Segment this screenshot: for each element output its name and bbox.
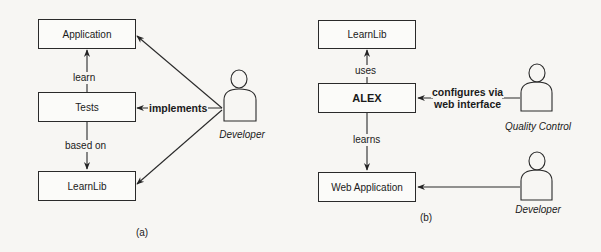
node-learnlib-b: LearnLib [318, 20, 416, 49]
edge-label-learn: learn [72, 72, 96, 84]
node-web-application: Web Application [318, 172, 416, 202]
actor-label-developer-b: Developer [515, 204, 561, 215]
node-label: Tests [75, 102, 98, 113]
actor-label-developer: Developer [219, 129, 265, 140]
caption-b: (b) [420, 212, 432, 223]
node-label: Web Application [331, 182, 403, 193]
developer-actor-icon [224, 70, 256, 121]
arrow-developer-learnlib [137, 110, 222, 184]
node-label: ALEX [352, 92, 381, 104]
node-application: Application [38, 19, 136, 49]
edge-label-based-on: based on [64, 140, 107, 152]
edge-label-implements: implements [148, 102, 208, 114]
node-learnlib: LearnLib [38, 171, 136, 201]
actor-label-quality-control: Quality Control [505, 121, 571, 132]
node-label: Application [63, 29, 112, 40]
arrow-developer-application [137, 36, 222, 108]
edge-label-learns: learns [352, 134, 381, 146]
quality-control-actor-icon [521, 64, 552, 111]
edge-label-configures-line1: configures via [431, 86, 504, 98]
edge-label-configures-line2: web interface [433, 98, 502, 110]
edge-label-uses: uses [354, 65, 377, 77]
node-label: LearnLib [348, 29, 387, 40]
node-tests: Tests [38, 92, 136, 122]
caption-a: (a) [136, 227, 148, 238]
node-label: LearnLib [68, 181, 107, 192]
developer-b-actor-icon [521, 152, 552, 200]
node-alex: ALEX [318, 83, 416, 113]
